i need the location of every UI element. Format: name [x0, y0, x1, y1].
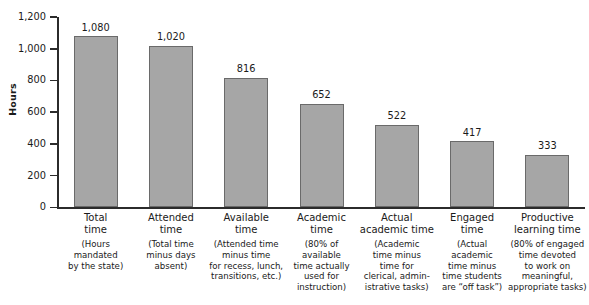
x-axis-labels: Total time(Hours mandated by the state)A…: [58, 212, 585, 304]
y-axis-tick-label: 1,200: [0, 11, 46, 22]
y-axis-tick: [50, 111, 57, 113]
y-axis-tick: [50, 207, 57, 209]
bar-value-label: 652: [286, 89, 358, 100]
y-axis-tick: [50, 16, 57, 18]
y-axis-tick: [50, 175, 57, 177]
bar-value-label: 1,080: [60, 22, 132, 33]
bar: [74, 36, 118, 207]
bar-group: 652: [300, 17, 344, 207]
category-description: (Hours mandated by the state): [54, 239, 137, 271]
category-description: (Attended time minus time for recess, lu…: [205, 239, 288, 281]
bar-value-label: 816: [210, 63, 282, 74]
bar-group: 522: [375, 17, 419, 207]
category-title: Attended time: [129, 212, 212, 237]
x-axis-category: Engaged time(Actual academic time minus …: [430, 212, 513, 292]
bar: [224, 78, 268, 207]
y-axis-tick-label: 600: [0, 106, 46, 117]
bar: [149, 46, 193, 208]
bar-value-label: 333: [511, 140, 583, 151]
category-description: (80% of engaged time devoted to work on …: [506, 239, 589, 292]
x-axis-line: [57, 207, 585, 209]
category-title: Academic time: [280, 212, 363, 237]
y-axis-tick-label: 800: [0, 74, 46, 85]
y-axis-tick-label: 1,000: [0, 43, 46, 54]
category-description: (Academic time minus time for clerical, …: [355, 239, 438, 292]
bar: [375, 125, 419, 208]
category-description: (Total time minus days absent): [129, 239, 212, 271]
category-title: Available time: [205, 212, 288, 237]
x-axis-category: Actual academic time(Academic time minus…: [355, 212, 438, 292]
bar: [525, 155, 569, 208]
bar: [300, 104, 344, 207]
bar-group: 816: [224, 17, 268, 207]
y-axis-tick-label: 400: [0, 138, 46, 149]
x-axis-category: Academic time(80% of available time actu…: [280, 212, 363, 292]
y-axis-tick: [50, 80, 57, 82]
category-title: Engaged time: [430, 212, 513, 237]
category-description: (80% of available time actually used for…: [280, 239, 363, 292]
category-title: Productive learning time: [506, 212, 589, 237]
bar-value-label: 1,020: [135, 31, 207, 42]
bar-value-label: 417: [436, 127, 508, 138]
category-description: (Actual academic time minus time student…: [430, 239, 513, 292]
bar-chart: Hours 02004006008001,0001,200 1,0801,020…: [0, 0, 589, 305]
x-axis-category: Productive learning time(80% of engaged …: [506, 212, 589, 292]
y-axis-tick: [50, 48, 57, 50]
y-axis-tick: [50, 143, 57, 145]
y-axis-tick-label: 200: [0, 170, 46, 181]
bar-group: 1,020: [149, 17, 193, 207]
bar: [450, 141, 494, 207]
category-title: Total time: [54, 212, 137, 237]
bar-group: 417: [450, 17, 494, 207]
bar-group: 333: [525, 17, 569, 207]
bar-value-label: 522: [361, 110, 433, 121]
plot-area: 1,0801,020816652522417333: [58, 17, 585, 207]
x-axis-category: Attended time(Total time minus days abse…: [129, 212, 212, 271]
x-axis-category: Total time(Hours mandated by the state): [54, 212, 137, 271]
bar-group: 1,080: [74, 17, 118, 207]
x-axis-category: Available time(Attended time minus time …: [205, 212, 288, 282]
category-title: Actual academic time: [355, 212, 438, 237]
y-axis-tick-label: 0: [0, 201, 46, 212]
